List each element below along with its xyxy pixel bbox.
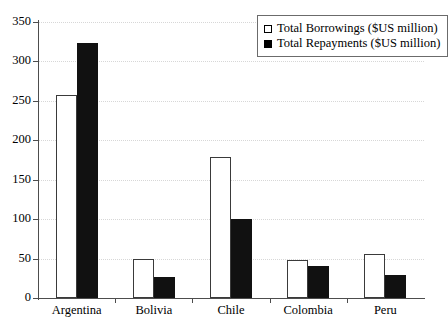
open-square-swatch-icon xyxy=(264,25,272,33)
y-tick-mark xyxy=(33,180,38,181)
bar-peru-borrowings xyxy=(364,254,385,298)
legend-item-repayments: Total Repayments ($US million) xyxy=(264,36,440,51)
y-tick-mark xyxy=(33,101,38,102)
x-category-label: Chile xyxy=(192,303,269,317)
legend-item-borrowings: Total Borrowings ($US million) xyxy=(264,21,440,36)
x-category-label: Argentina xyxy=(38,303,115,317)
y-tick-mark xyxy=(33,140,38,141)
bar-colombia-borrowings xyxy=(287,260,308,298)
y-axis-line xyxy=(38,20,39,300)
bar-bolivia-borrowings xyxy=(133,259,154,298)
chart-legend: Total Borrowings ($US million) Total Rep… xyxy=(257,15,448,57)
plot-area xyxy=(38,22,424,298)
y-tick-label: 150 xyxy=(0,173,31,186)
bar-bolivia-repayments xyxy=(154,277,175,298)
x-category-label: Colombia xyxy=(270,303,347,317)
bar-chile-borrowings xyxy=(210,157,231,298)
y-tick-mark xyxy=(33,298,38,299)
y-tick-mark xyxy=(33,61,38,62)
y-tick-label: 200 xyxy=(0,133,31,146)
bar-argentina-repayments xyxy=(77,43,98,298)
y-tick-label: 250 xyxy=(0,94,31,107)
bar-peru-repayments xyxy=(385,275,406,298)
y-tick-label: 300 xyxy=(0,54,31,67)
x-category-label: Peru xyxy=(347,303,424,317)
legend-label-repayments: Total Repayments ($US million) xyxy=(277,37,440,50)
x-category-label: Bolivia xyxy=(115,303,192,317)
y-tick-label: 50 xyxy=(0,252,31,265)
y-tick-mark xyxy=(33,259,38,260)
y-tick-label: 350 xyxy=(0,15,31,28)
bar-chile-repayments xyxy=(231,219,252,298)
y-tick-mark xyxy=(33,22,38,23)
bar-colombia-repayments xyxy=(308,266,329,298)
y-tick-label: 100 xyxy=(0,212,31,225)
bar-argentina-borrowings xyxy=(56,95,77,298)
filled-square-swatch-icon xyxy=(264,40,272,48)
y-axis: 050100150200250300350 xyxy=(0,0,31,331)
y-tick-label: 0 xyxy=(0,291,31,304)
y-tick-mark xyxy=(33,219,38,220)
x-axis-line xyxy=(38,298,425,299)
legend-label-borrowings: Total Borrowings ($US million) xyxy=(277,22,438,35)
